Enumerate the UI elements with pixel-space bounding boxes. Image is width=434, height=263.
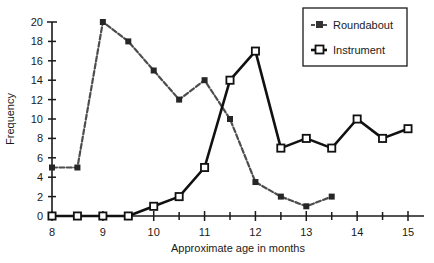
y-axis-tick-label: 18: [31, 35, 43, 47]
data-point-marker: [49, 165, 55, 171]
data-point-marker: [125, 38, 131, 44]
y-axis-tick-label: 8: [37, 132, 43, 144]
data-point-marker: [176, 97, 182, 103]
x-axis-tick-label: 12: [249, 226, 261, 238]
x-axis-tick-label: 11: [199, 226, 210, 238]
y-axis-tick-label: 2: [37, 191, 43, 203]
chart-legend: Roundabout Instrument: [303, 8, 407, 66]
data-point-marker: [329, 194, 335, 200]
data-point-marker: [252, 179, 258, 185]
x-axis-tick-label: 15: [402, 226, 414, 238]
data-point-marker: [277, 145, 284, 152]
open-square-icon: [316, 46, 324, 54]
data-point-marker: [201, 164, 208, 171]
x-axis-title: Approximate age in months: [171, 242, 305, 254]
legend-label-roundabout: Roundabout: [333, 19, 393, 31]
chart-figure: 02468101214161820 89101112131415 Frequen…: [0, 0, 434, 263]
data-point-marker: [48, 212, 55, 219]
data-point-marker: [74, 165, 80, 171]
data-point-marker: [379, 135, 386, 142]
line-chart-canvas: 02468101214161820 89101112131415 Frequen…: [0, 0, 434, 263]
data-point-marker: [151, 68, 157, 74]
x-axis-tick-label: 9: [100, 226, 106, 238]
data-point-marker: [99, 212, 106, 219]
data-point-marker: [150, 203, 157, 210]
data-point-marker: [354, 115, 361, 122]
x-axis-tick-label: 10: [148, 226, 160, 238]
y-axis-tick-label: 12: [31, 94, 43, 106]
data-point-marker: [176, 193, 183, 200]
y-axis-tick-label: 0: [37, 210, 43, 222]
y-axis-tick-label: 6: [37, 152, 43, 164]
x-axis-tick-label: 13: [300, 226, 312, 238]
y-axis-tick-label: 16: [31, 55, 43, 67]
data-point-marker: [278, 194, 284, 200]
legend-item-instrument[interactable]: Instrument: [311, 44, 385, 56]
data-point-marker: [303, 203, 309, 209]
y-axis-tick-label: 10: [31, 113, 43, 125]
y-axis-tick-label: 20: [31, 16, 43, 28]
data-point-marker: [125, 212, 132, 219]
y-axis-title: Frequency: [4, 93, 16, 145]
x-axis-tick-label: 8: [49, 226, 55, 238]
x-axis-tick-label: 14: [351, 226, 363, 238]
data-point-marker: [226, 77, 233, 84]
legend-box: [303, 8, 407, 66]
y-axis-tick-label: 4: [37, 171, 43, 183]
data-point-marker: [74, 212, 81, 219]
filled-square-icon: [316, 21, 323, 28]
data-point-marker: [303, 135, 310, 142]
data-point-marker: [404, 125, 411, 132]
data-point-marker: [328, 145, 335, 152]
data-point-marker: [100, 19, 106, 25]
data-point-marker: [202, 77, 208, 83]
data-point-marker: [252, 48, 259, 55]
data-point-marker: [227, 116, 233, 122]
y-axis-tick-label: 14: [31, 74, 43, 86]
legend-label-instrument: Instrument: [333, 44, 385, 56]
